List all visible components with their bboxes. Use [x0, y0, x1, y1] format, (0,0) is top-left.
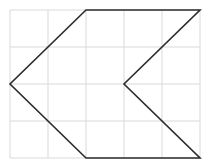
grid-diagram [0, 0, 202, 165]
grid-lines [10, 10, 200, 158]
